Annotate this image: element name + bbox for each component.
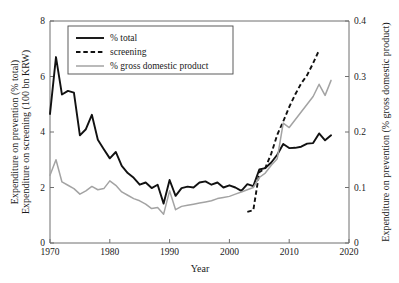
y-axis-left-ticks: 02468	[40, 16, 54, 248]
x-axis-title: Year	[191, 263, 210, 274]
legend-label-0: % total	[110, 33, 138, 43]
y-left-tick-label: 0	[40, 238, 45, 248]
series-line-1	[247, 50, 319, 212]
y-right-tick-label: 0.2	[354, 127, 366, 137]
y-axis-left-title-line2: Expenditure on screening (100 bn KRW)	[20, 50, 32, 214]
series-line-0	[50, 57, 331, 204]
x-tick-label: 1990	[160, 247, 179, 257]
y-right-tick-label: 0.3	[354, 72, 366, 82]
y-left-tick-label: 2	[40, 183, 45, 193]
y-axis-right-title: Expenditure on prevention (% gross domes…	[380, 22, 392, 241]
x-tick-label: 2010	[280, 247, 299, 257]
y-right-tick-label: 0	[354, 238, 359, 248]
y-right-tick-label: 0.1	[354, 183, 366, 193]
x-axis-ticks: 197019801990200020102020	[41, 239, 359, 257]
legend-label-1: screening	[110, 47, 147, 57]
y-left-tick-label: 6	[40, 72, 45, 82]
x-tick-label: 2020	[340, 247, 359, 257]
chart-legend: % totalscreening% gross domestic product	[68, 26, 233, 74]
line-chart: 197019801990200020102020 02468 00.10.20.…	[0, 0, 399, 283]
y-axis-right-ticks: 00.10.20.30.4	[345, 16, 366, 248]
x-tick-label: 1980	[100, 247, 119, 257]
legend-label-2: % gross domestic product	[110, 61, 209, 71]
x-tick-label: 2000	[220, 247, 239, 257]
y-right-tick-label: 0.4	[354, 16, 366, 26]
y-left-tick-label: 8	[40, 16, 45, 26]
x-tick-label: 1970	[41, 247, 60, 257]
series-layer	[50, 50, 331, 214]
y-left-tick-label: 4	[40, 127, 45, 137]
chart-figure: 197019801990200020102020 02468 00.10.20.…	[0, 0, 399, 283]
